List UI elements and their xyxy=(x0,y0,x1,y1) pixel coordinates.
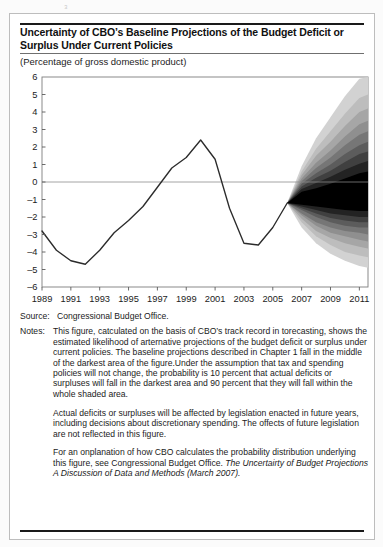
y-tick-label: –6 xyxy=(27,282,37,292)
y-tick-label: 4 xyxy=(32,107,37,117)
fan-chart-svg: 6543210–1–2–3–4–5–6198919911993199519971… xyxy=(20,71,372,308)
figure-title: Uncertainty of CBO’s Baseline Projection… xyxy=(20,26,368,51)
x-tick-label: 1993 xyxy=(89,294,110,304)
notes-block: Notes: This figure, catculated on the ba… xyxy=(20,326,370,478)
x-tick-label: 2009 xyxy=(320,294,341,304)
x-tick-label: 1991 xyxy=(61,294,82,304)
y-tick-label: –5 xyxy=(27,265,37,275)
x-tick-label: 2003 xyxy=(234,294,255,304)
source-label: Source: xyxy=(20,311,50,321)
x-tick-label: 2001 xyxy=(205,294,226,304)
x-tick-label: 1989 xyxy=(32,294,53,304)
source-text: Congressional Budget Office. xyxy=(57,311,169,321)
y-axis: 6543210–1–2–3–4–5–6 xyxy=(27,72,45,292)
notes-paragraph-1: This figure, catculated on the basis of … xyxy=(53,326,370,399)
y-tick-label: 5 xyxy=(32,90,37,100)
x-tick-label: 2005 xyxy=(262,294,283,304)
header-rule-top xyxy=(20,23,364,25)
y-tick-label: –2 xyxy=(27,212,37,222)
figure-page: ₃ Uncertainty of CBO’s Baseline Projecti… xyxy=(0,0,383,547)
notes-label: Notes: xyxy=(20,326,53,336)
y-tick-label: 2 xyxy=(32,142,37,152)
y-tick-label: –3 xyxy=(27,230,37,240)
y-tick-label: 3 xyxy=(32,125,37,135)
notes-body: This figure, catculated on the basis of … xyxy=(53,326,370,478)
chart-plot-area: 6543210–1–2–3–4–5–6198919911993199519971… xyxy=(20,71,372,308)
x-tick-label: 2007 xyxy=(291,294,312,304)
header-rule-mid xyxy=(20,53,364,54)
historical-deficit-line xyxy=(42,140,287,264)
y-tick-label: 0 xyxy=(32,177,37,187)
notes-paragraph-2: Actual deficits or surpluses will be aff… xyxy=(53,408,370,439)
y-tick-label: –4 xyxy=(27,247,37,257)
fan-bands xyxy=(287,77,368,268)
source-row: Source: Congressional Budget Office. xyxy=(20,311,370,321)
scan-artifact: ₃ xyxy=(64,1,73,10)
y-tick-label: 1 xyxy=(32,160,37,170)
x-tick-label: 2011 xyxy=(349,294,369,304)
x-tick-label: 1997 xyxy=(147,294,168,304)
figure-notes: Source: Congressional Budget Office. Not… xyxy=(20,311,370,479)
y-tick-label: 6 xyxy=(32,72,37,82)
y-tick-label: –1 xyxy=(27,195,37,205)
figure-subtitle: (Percentage of gross domestic product) xyxy=(20,56,364,67)
figure-frame: Uncertainty of CBO’s Baseline Projection… xyxy=(9,13,375,540)
x-tick-label: 1995 xyxy=(118,294,139,304)
notes-paragraph-3: For an onplanation of how CBO calculates… xyxy=(53,447,370,478)
x-tick-label: 1999 xyxy=(176,294,197,304)
x-axis: 1989199119931995199719992001200320052007… xyxy=(32,287,370,304)
footer-rule-bottom xyxy=(20,530,364,532)
